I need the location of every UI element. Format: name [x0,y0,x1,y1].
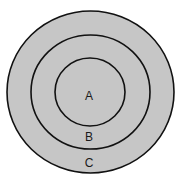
label-c: C [85,156,94,170]
concentric-circles-diagram: A B C [0,0,180,181]
label-a: A [85,89,93,103]
label-b: B [85,130,93,144]
